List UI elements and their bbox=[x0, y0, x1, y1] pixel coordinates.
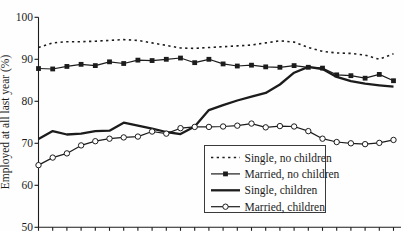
square-marker bbox=[349, 73, 354, 78]
y-axis-title: Employed at all last year (%) bbox=[0, 55, 12, 190]
series-single-no-children bbox=[39, 40, 394, 60]
square-marker bbox=[136, 58, 141, 63]
circle-marker bbox=[36, 162, 41, 167]
y-tick-label: 80 bbox=[22, 95, 34, 107]
circle-marker bbox=[391, 137, 396, 142]
circle-marker bbox=[50, 155, 55, 160]
legend-circle-marker bbox=[223, 204, 228, 209]
legend-label: Married, no children bbox=[245, 168, 340, 181]
circle-marker bbox=[93, 139, 98, 144]
square-marker bbox=[36, 66, 41, 71]
circle-marker bbox=[178, 125, 183, 130]
square-marker bbox=[249, 63, 254, 68]
square-marker bbox=[363, 76, 368, 81]
square-marker bbox=[278, 65, 283, 70]
circle-marker bbox=[348, 141, 353, 146]
legend-label: Single, no children bbox=[245, 152, 332, 165]
circle-marker bbox=[263, 125, 268, 130]
circle-marker bbox=[249, 121, 254, 126]
circle-marker bbox=[377, 140, 382, 145]
legend-label: Single, children bbox=[245, 184, 318, 197]
chart-canvas: 5060708090100Employed at all last year (… bbox=[0, 0, 404, 231]
y-tick-labels: 5060708090100 bbox=[16, 11, 34, 231]
employment-line-chart: 5060708090100Employed at all last year (… bbox=[0, 0, 404, 231]
circle-marker bbox=[64, 151, 69, 156]
y-tick-label: 100 bbox=[16, 11, 34, 23]
square-marker bbox=[50, 67, 55, 72]
y-tick-label: 90 bbox=[22, 53, 34, 65]
circle-marker bbox=[149, 129, 154, 134]
circle-marker bbox=[164, 131, 169, 136]
circle-marker bbox=[320, 136, 325, 141]
square-marker bbox=[164, 57, 169, 62]
y-tick-label: 70 bbox=[22, 137, 34, 149]
circle-marker bbox=[362, 141, 367, 146]
circle-marker bbox=[206, 124, 211, 129]
legend-label: Married, children bbox=[245, 201, 326, 214]
square-marker bbox=[65, 64, 70, 69]
square-marker bbox=[93, 63, 98, 68]
square-marker bbox=[263, 64, 268, 69]
circle-marker bbox=[291, 124, 296, 129]
square-marker bbox=[107, 59, 112, 64]
circle-marker bbox=[135, 134, 140, 139]
circle-marker bbox=[235, 123, 240, 128]
series-line bbox=[39, 40, 394, 60]
square-marker bbox=[377, 72, 382, 77]
circle-marker bbox=[107, 136, 112, 141]
legend-square-marker bbox=[223, 172, 228, 177]
square-marker bbox=[192, 60, 197, 65]
circle-marker bbox=[306, 128, 311, 133]
square-marker bbox=[221, 62, 226, 67]
legend: Single, no childrenMarried, no childrenS… bbox=[205, 146, 340, 214]
square-marker bbox=[391, 78, 396, 83]
series-line bbox=[39, 67, 394, 139]
y-tick-label: 50 bbox=[22, 221, 34, 231]
circle-marker bbox=[192, 124, 197, 129]
square-marker bbox=[121, 61, 126, 66]
circle-marker bbox=[121, 135, 126, 140]
square-marker bbox=[178, 56, 183, 61]
circle-marker bbox=[78, 143, 83, 148]
circle-marker bbox=[277, 123, 282, 128]
square-marker bbox=[235, 64, 240, 69]
circle-marker bbox=[334, 139, 339, 144]
series-single-children bbox=[39, 67, 394, 139]
square-marker bbox=[79, 62, 84, 67]
square-marker bbox=[150, 58, 155, 63]
square-marker bbox=[207, 57, 212, 62]
circle-marker bbox=[220, 124, 225, 129]
square-marker bbox=[292, 63, 297, 68]
y-tick-label: 60 bbox=[22, 179, 34, 191]
